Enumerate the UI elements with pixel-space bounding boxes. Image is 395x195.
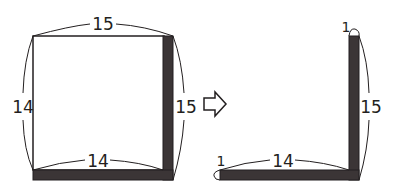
bottom-label: 14 xyxy=(87,151,109,171)
horizontal-strip xyxy=(220,170,359,180)
left-label: 14 xyxy=(12,97,34,117)
square-outline xyxy=(33,36,164,170)
after-figure: 1 15 1 14 xyxy=(214,19,382,180)
vertical-label: 15 xyxy=(360,97,382,117)
top-label: 15 xyxy=(92,14,114,34)
left-thickness-label: 1 xyxy=(217,153,226,169)
diagram-canvas: 15 14 15 14 1 15 1 14 xyxy=(0,0,395,195)
right-label: 15 xyxy=(175,97,197,117)
top-thickness-arc xyxy=(349,29,359,36)
before-figure: 15 14 15 14 xyxy=(12,14,197,180)
right-strip xyxy=(163,36,173,180)
right-arrow-icon xyxy=(204,92,226,116)
top-thickness-label: 1 xyxy=(342,19,351,35)
left-thickness-arc xyxy=(214,170,220,180)
vertical-strip xyxy=(349,36,359,180)
horizontal-label: 14 xyxy=(272,151,294,171)
bottom-strip xyxy=(33,170,173,180)
